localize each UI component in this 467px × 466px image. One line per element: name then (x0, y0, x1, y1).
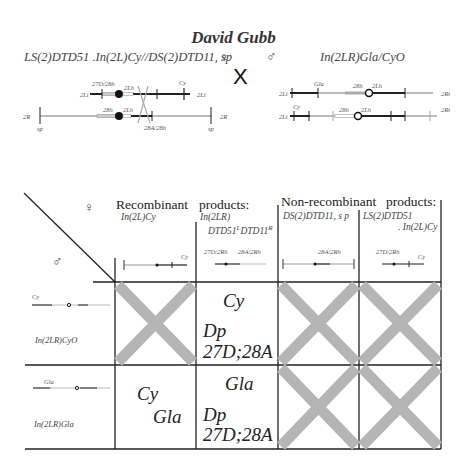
nonrecombinant-header-2: products: (386, 194, 436, 210)
cell-r2c2-line3: 27D;28A (203, 424, 273, 446)
cell-r2c1-line2: Gla (153, 406, 182, 428)
map-end-label: 2R (220, 113, 227, 120)
map-label: 28h (353, 82, 363, 89)
map-end-label: 2Lt (197, 91, 206, 98)
female-chromosome-maps (40, 86, 212, 124)
female-genotype: LS(2)DTD51 .In(2L)Cy//DS(2)DTD11, sp (24, 50, 232, 65)
male-genotype: In(2LR)Gla/CyO (320, 50, 405, 65)
corner-male-icon: ♂ (52, 254, 63, 270)
map-end-label: 2Lt (279, 90, 288, 97)
map-marker: sp (37, 125, 43, 132)
cell-r1c2-line2: Dp (203, 320, 226, 342)
row-map-label: Cy (32, 293, 39, 300)
map-label: Cy (293, 103, 300, 110)
column-label: In(2L)Cy (121, 212, 156, 222)
male-chromosome-maps (290, 88, 437, 121)
map-end-label: 2R (23, 113, 30, 120)
column-label-line2: . In(2L)Cy (398, 222, 438, 232)
row-map-label: Gla (44, 378, 54, 385)
map-end-label: 2Lt (80, 91, 89, 98)
cell-r1c2-line3: 27D;28A (203, 341, 273, 363)
map-label: Gla (314, 80, 324, 87)
corner-female-icon: ♀ (84, 200, 95, 216)
map-end-label: 2Lt (279, 113, 288, 120)
map-end-label: 2Rt (441, 90, 450, 97)
recombinant-header-2: products: (199, 197, 249, 213)
row-label: In(2LR)Gla (34, 419, 74, 429)
map-label: Cy (418, 253, 425, 260)
map-label: 27D/2Rh (376, 248, 399, 255)
map-label: 27D/2Rh (204, 248, 227, 255)
map-label: Cy (179, 79, 186, 86)
male-symbol-icon: ♂ (266, 49, 277, 65)
map-label: 2Lh (124, 84, 134, 91)
column-label-line2: DTD51LDTD11R (208, 224, 273, 236)
recombinant-header: Recombinant (116, 197, 188, 213)
map-label: 28h (339, 106, 349, 113)
map-label: 2Lh (372, 82, 382, 89)
map-label: 2Lh (361, 106, 371, 113)
cell-r2c1-line1: Cy (137, 383, 158, 405)
cell-r2c2-line1: Gla (225, 373, 254, 395)
column-label: LS(2)DTD51 (363, 211, 413, 221)
map-marker: sp (208, 125, 214, 132)
female-symbol-icon: ♀ (219, 50, 230, 66)
map-label: 28h (103, 106, 113, 113)
cross-symbol-icon: X (233, 64, 248, 90)
cell-r2c2-line2: Dp (203, 404, 226, 426)
column-label: DS(2)DTD11, s p (283, 211, 349, 221)
column-label: In(2LR) (200, 212, 230, 222)
nonrecombinant-header: Non-recombinant (281, 194, 376, 210)
map-label: 28A/2Rh (238, 248, 261, 255)
map-end-label: 2Rt (441, 106, 450, 113)
map-label: Cy (181, 253, 188, 260)
cell-r1c2-line1: Cy (223, 290, 244, 312)
map-label: 28A/28h (144, 124, 166, 131)
map-label: 28A/2Rh (318, 248, 341, 255)
row-label: In(2LR)CyO (35, 335, 78, 345)
map-label: 27D/28h (92, 80, 115, 87)
author-title: David Gubb (0, 28, 467, 48)
map-label: 2Lh (123, 106, 133, 113)
